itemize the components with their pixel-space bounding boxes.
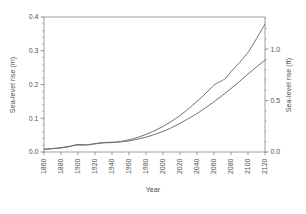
y-tick-label-left: 0.0 — [29, 148, 39, 155]
x-tick-label: 2080 — [227, 158, 234, 174]
y-tick-label-left: 0.4 — [29, 13, 39, 20]
x-tick-label: 1900 — [74, 158, 81, 174]
y-tick-label-right: 0.5 — [271, 97, 281, 104]
figure-container: 1860188019001920194019601980200020202040… — [0, 0, 306, 214]
y-axis-left-title: Sea-level rise (m) — [8, 57, 17, 113]
x-tick-label: 2120 — [261, 158, 268, 174]
y-tick-label-left: 0.2 — [29, 81, 39, 88]
y-axis-right-title: Sea-level rise (ft) — [284, 58, 293, 112]
x-tick-label: 1980 — [142, 158, 149, 174]
y-tick-label-right: 0.0 — [271, 148, 281, 155]
sea-level-rise-line-chart: 1860188019001920194019601980200020202040… — [0, 0, 306, 214]
x-tick-label: 2060 — [210, 158, 217, 174]
y-tick-label-right: 1.0 — [271, 46, 281, 53]
x-tick-label: 2040 — [193, 158, 200, 174]
x-tick-label: 2100 — [244, 158, 251, 174]
x-tick-label: 2020 — [176, 158, 183, 174]
x-tick-label: 1880 — [57, 158, 64, 174]
y-tick-label-left: 0.3 — [29, 47, 39, 54]
x-tick-label: 2000 — [159, 158, 166, 174]
x-tick-label: 1960 — [125, 158, 132, 174]
x-tick-label: 1940 — [108, 158, 115, 174]
x-tick-label: 1920 — [91, 158, 98, 174]
x-axis-title: Year — [146, 185, 161, 194]
x-tick-label: 1860 — [40, 158, 47, 174]
y-tick-label-left: 0.1 — [29, 115, 39, 122]
